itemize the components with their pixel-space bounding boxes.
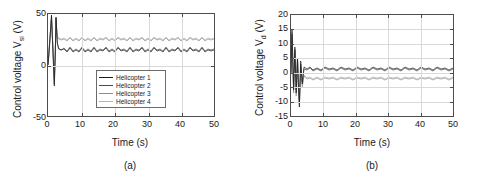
panel-a: Control voltage Vsi (V) 50 0 -50 0 10 20… (0, 0, 239, 185)
legend-item: Helicopter 1 (99, 73, 162, 81)
trace-helicopter-3 (291, 37, 453, 104)
panel-a-xtick-label: 0 (32, 120, 62, 129)
legend-item-label: Helicopter 4 (116, 98, 151, 105)
panel-b-ytick-label: 10 (262, 39, 288, 48)
panel-a-xtick-label: 20 (98, 120, 128, 129)
figure-control-voltages: Control voltage Vsi (V) 50 0 -50 0 10 20… (0, 0, 479, 185)
panel-b-xtick-label: 10 (308, 120, 338, 129)
legend-item: Helicopter 3 (99, 89, 162, 97)
panel-b-ytick-label: 20 (262, 10, 288, 19)
panel-b-xtick-label: 0 (275, 120, 305, 129)
panel-a-xtick-label: 10 (65, 120, 95, 129)
legend-item: Helicopter 4 (99, 97, 162, 105)
panel-b-xtick-label: 50 (438, 120, 468, 129)
panel-b-ytick-label: 5 (262, 53, 288, 62)
legend-line-icon (99, 77, 113, 78)
legend-item-label: Helicopter 3 (116, 90, 151, 97)
panel-a-legend: Helicopter 1 Helicopter 2 Helicopter 3 H… (96, 70, 166, 108)
panel-a-xtick-label: 40 (165, 120, 195, 129)
panel-b-plot-area (290, 14, 454, 117)
trace-helicopter-1 (291, 29, 453, 107)
panel-a-caption: (a) (40, 160, 220, 171)
legend-item: Helicopter 2 (99, 81, 162, 89)
panel-b-x-axis-title: Time (s) (282, 137, 462, 148)
legend-item-label: Helicopter 2 (116, 82, 151, 89)
panel-b-ytick-label: -5 (262, 83, 288, 92)
panel-b-xtick-label: 40 (405, 120, 435, 129)
panel-a-xtick-label: 50 (199, 120, 229, 129)
panel-b-xtick-label: 20 (340, 120, 370, 129)
legend-item-label: Helicopter 1 (116, 74, 151, 81)
legend-line-icon (99, 101, 113, 102)
panel-b-ytick-label: -10 (262, 97, 288, 106)
panel-a-ytick-label: 50 (20, 9, 46, 18)
legend-line-icon (99, 85, 113, 86)
panel-b-ytick-label: 15 (262, 24, 288, 33)
panel-b-caption: (b) (282, 160, 462, 171)
panel-b: Control voltage Vd (V) 20 15 10 5 0 -5 -… (240, 0, 479, 185)
panel-b-xtick-label: 30 (373, 120, 403, 129)
panel-a-x-axis-title: Time (s) (40, 137, 220, 148)
panel-a-xtick-label: 30 (132, 120, 162, 129)
legend-line-icon (99, 93, 113, 94)
panel-a-ytick-label: 0 (20, 61, 46, 70)
panel-b-ytick-label: 0 (262, 68, 288, 77)
